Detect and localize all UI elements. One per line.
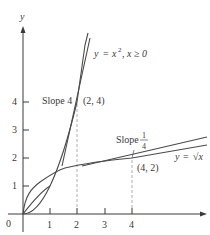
x-tick-2: 2 (74, 219, 79, 230)
y-tick-2: 2 (12, 152, 17, 163)
svg-text:√x: √x (193, 151, 203, 162)
point-4-2-label: (4, 2) (137, 162, 159, 174)
x-tick-4: 4 (129, 219, 134, 230)
sqrt-label: y = √x (174, 151, 203, 162)
x-tick-1: 1 (47, 219, 52, 230)
svg-text:y: y (174, 151, 180, 162)
parabola-label: y = x 2 , x ≥ 0 (93, 46, 147, 59)
slope-4-label: Slope 4 (42, 95, 72, 106)
svg-text:=: = (183, 151, 189, 162)
parabola-curve (23, 33, 88, 214)
y-tick-4: 4 (12, 96, 17, 107)
y-tick-3: 3 (12, 124, 17, 135)
svg-text:, x ≥ 0: , x ≥ 0 (122, 48, 147, 59)
point-2-4-label: (2, 4) (83, 95, 105, 107)
reflection-line-segment (23, 186, 50, 214)
y-axis-arrow-icon (21, 26, 26, 33)
slope-quarter-label: Slope (116, 134, 139, 145)
slope-quarter-numerator: 1 (142, 131, 146, 140)
slope-quarter-denominator: 4 (142, 142, 146, 151)
origin-label: 0 (6, 218, 11, 229)
y-tick-1: 1 (12, 180, 17, 191)
x-axis-arrow-icon (200, 212, 207, 217)
svg-text:=: = (103, 48, 109, 59)
svg-text:x: x (111, 48, 117, 59)
y-axis-label: y (19, 11, 25, 22)
function-inverse-diagram: y 0 1 2 3 4 1 2 3 4 y = x 2 , x ≥ 0 Slop… (0, 0, 210, 235)
svg-text:y: y (93, 48, 99, 59)
x-tick-3: 3 (102, 219, 107, 230)
